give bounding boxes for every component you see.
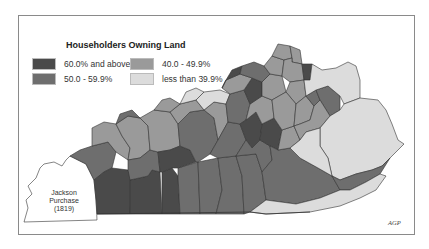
legend-swatch [32, 58, 56, 70]
legend-swatch [130, 58, 154, 70]
legend-label: 60.0% and above [64, 59, 130, 69]
jackson-purchase-line3: (1819) [44, 205, 84, 213]
legend-label: 40.0 - 49.9% [162, 59, 210, 69]
legend-item-60-and-above: 60.0% and above [32, 58, 130, 70]
map-credit: AGP [388, 219, 401, 226]
county [178, 162, 200, 214]
legend-item-less-than-39: less than 39.9% [130, 73, 222, 85]
map-title: Householders Owning Land [66, 40, 186, 50]
legend-item-40-49: 40.0 - 49.9% [130, 58, 210, 70]
legend-swatch [130, 73, 154, 85]
jackson-purchase-line1: Jackson [44, 189, 84, 197]
jackson-purchase-label: Jackson Purchase (1819) [44, 189, 84, 213]
legend-swatch [32, 73, 56, 85]
legend-item-50-59: 50.0 - 59.9% [32, 73, 112, 85]
legend-label: 50.0 - 59.9% [64, 74, 112, 84]
legend-label: less than 39.9% [162, 74, 222, 84]
jackson-purchase-line2: Purchase [44, 197, 84, 205]
county [162, 168, 180, 214]
